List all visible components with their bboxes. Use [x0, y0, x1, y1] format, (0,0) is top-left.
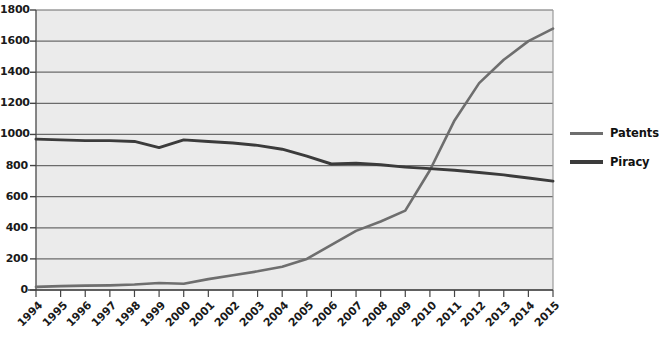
y-tick-label-200: 200 [0, 252, 28, 265]
legend-item-patents[interactable]: Patents [570, 126, 659, 140]
legend-swatch-piracy [570, 160, 603, 164]
y-tick-label-800: 800 [0, 159, 28, 172]
legend-item-piracy[interactable]: Piracy [570, 155, 650, 169]
y-tick-label-0: 0 [0, 283, 28, 296]
y-tick-label-1800: 1800 [0, 3, 28, 16]
plot-area-background [36, 10, 553, 290]
legend-swatch-patents [570, 132, 603, 135]
y-tick-label-1400: 1400 [0, 65, 28, 78]
y-tick-label-1000: 1000 [0, 127, 28, 140]
legend-label-patents: Patents [610, 126, 659, 140]
y-tick-label-1600: 1600 [0, 34, 28, 47]
y-tick-label-400: 400 [0, 221, 28, 234]
legend-label-piracy: Piracy [610, 155, 650, 169]
y-tick-label-600: 600 [0, 190, 28, 203]
y-tick-label-1200: 1200 [0, 96, 28, 109]
